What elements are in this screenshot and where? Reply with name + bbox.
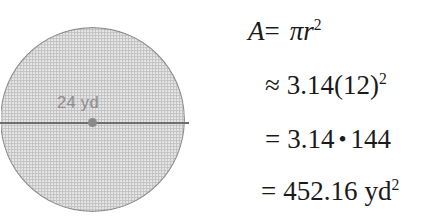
circle-center-point <box>88 118 97 127</box>
equation-line-1: A=πr2 <box>248 18 322 45</box>
equals-operator-3: = <box>265 126 280 153</box>
equals-operator-4: = <box>261 178 276 205</box>
factor-radius-squared: 144 <box>351 124 392 154</box>
area-unit: yd <box>364 176 391 206</box>
radius-variable: r <box>303 16 314 46</box>
area-result: 452.16 <box>283 176 357 206</box>
equation-line-4: =452.16yd2 <box>261 178 399 205</box>
multiplication-dot: • <box>338 129 346 152</box>
area-unit-exponent: 2 <box>391 176 399 193</box>
circle-diagram: 24 yd <box>0 0 214 218</box>
worked-example-figure: 24 yd A=πr2 ≈3.14(12)2 =3.14•144 =452.16… <box>0 0 428 218</box>
approx-operator: ≈ <box>265 72 280 99</box>
area-variable: A <box>248 16 265 46</box>
equation-line-3: =3.14•144 <box>265 126 391 153</box>
equals-operator-1: = <box>265 18 280 45</box>
radius-exponent: 2 <box>314 16 322 33</box>
pi-symbol: π <box>290 16 304 46</box>
equation-steps: A=πr2 ≈3.14(12)2 =3.14•144 =452.16yd2 <box>214 0 428 218</box>
circle-left-crop-mask <box>0 20 1 218</box>
substituted-value: 3.14(12) <box>287 70 379 100</box>
equation-line-2: ≈3.14(12)2 <box>265 72 387 99</box>
substituted-exponent: 2 <box>379 70 387 87</box>
diameter-label: 24 yd <box>57 93 99 112</box>
factor-pi-approx: 3.14 <box>287 124 334 154</box>
